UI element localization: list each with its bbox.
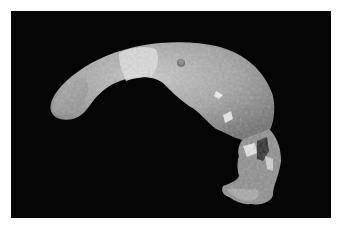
fossil-skull-illustration xyxy=(11,11,331,218)
fossil-photo xyxy=(11,11,331,218)
